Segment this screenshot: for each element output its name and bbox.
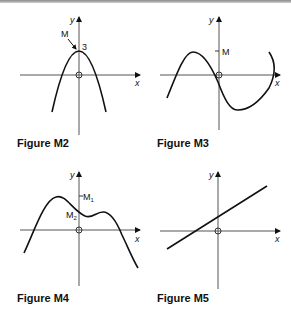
figure-caption: Figure M3 [157,137,209,149]
tick-m-label: M [222,47,230,57]
tick-m2-label: M2 [66,210,78,221]
x-axis-label: x [274,234,280,244]
y-axis-label: y [69,170,75,180]
value-3-label: 3 [82,42,87,52]
linear-line [167,186,267,249]
figure-m3: y x M Figure M3 [157,15,280,149]
figure-caption: Figure M4 [17,292,70,304]
tick-m1-label: M1 [83,192,95,203]
figure-m2: y x M 3 Figure M2 [17,15,140,149]
y-axis-label: y [69,15,75,25]
x-axis-label: x [134,78,140,88]
figure-m5: y x Figure M5 [157,170,280,304]
figure-m4: y x M1 M2 Figure M4 [17,170,140,304]
x-axis-label: x [274,78,280,88]
y-axis-label: y [208,15,214,25]
figure-caption: Figure M2 [17,137,69,149]
point-m-label: M [61,29,69,39]
cubic-curve [167,52,274,110]
m-pointer-arrow [68,39,76,49]
y-axis-label: y [208,170,214,180]
x-axis-label: x [134,234,140,244]
figure-caption: Figure M5 [157,292,209,304]
